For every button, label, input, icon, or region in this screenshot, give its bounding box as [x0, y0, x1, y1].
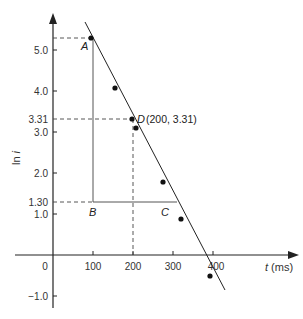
data-point [178, 216, 183, 221]
ytick-4: 4.0 [34, 86, 48, 97]
ytick-3: 3.0 [34, 127, 48, 138]
label-d-coords: (200, 3.31) [146, 113, 197, 125]
xtick-200: 200 [125, 261, 142, 272]
xtick-300: 300 [165, 261, 182, 272]
ytick-3-31: 3.31 [29, 114, 49, 125]
x-tick-labels: 0 100 200 300 400 [42, 261, 225, 272]
y-axis-arrow-icon [49, 13, 57, 24]
data-point [207, 273, 212, 278]
data-points [88, 35, 212, 278]
x-axis-arrow-icon [288, 251, 299, 259]
ytick-5: 5.0 [34, 45, 48, 56]
data-point [112, 85, 117, 90]
label-b: B [89, 206, 96, 218]
ytick-1-30: 1.30 [29, 197, 49, 208]
best-fit-line [85, 22, 225, 290]
ytick-1: 1.0 [34, 209, 48, 220]
data-point [129, 116, 134, 121]
ytick-2: 2.0 [34, 168, 48, 179]
data-point [160, 179, 165, 184]
x-axis-title: t(ms) [265, 261, 293, 273]
label-d: D [137, 113, 145, 125]
xtick-100: 100 [85, 261, 102, 272]
data-point [88, 35, 93, 40]
label-c: C [161, 206, 169, 218]
y-axis-title: ln i [10, 150, 22, 165]
ytick-minus-1: −1.0 [28, 291, 48, 302]
xtick-0: 0 [42, 261, 48, 272]
data-point [133, 125, 138, 130]
construction-lines [53, 38, 177, 255]
label-a: A [80, 40, 88, 52]
chart-canvas: 5.0 4.0 3.31 3.0 2.0 1.30 1.0 −1.0 0 100… [0, 0, 303, 319]
